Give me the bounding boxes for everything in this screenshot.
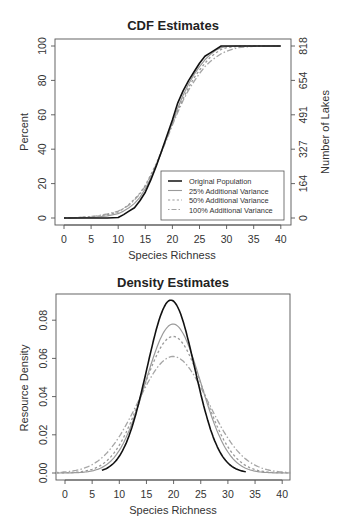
cdf-x-axis: 0510152025303540 <box>61 225 287 245</box>
y-right-tick-label: 654 <box>297 71 309 89</box>
density-y-axis: 0.000.020.040.060.08 <box>37 310 56 483</box>
cdf-chart-title: CDF Estimates <box>127 18 219 33</box>
legend-label: 25% Additional Variance <box>189 187 269 196</box>
legend-label: Original Population <box>189 177 251 186</box>
cdf-x-axis-label: Species Richness <box>128 249 216 261</box>
y-tick-label: 80 <box>36 74 48 86</box>
y-tick-label: 0.00 <box>37 463 49 484</box>
chart-figure: CDF Estimates 0510152025303540 020406080… <box>0 0 345 529</box>
cdf-y-axis-left: 020406080100 <box>36 37 55 221</box>
y-tick-label: 0.08 <box>37 310 49 331</box>
density-x-axis: 0510152025303540 <box>62 480 288 500</box>
x-tick-label: 15 <box>139 233 151 245</box>
legend-label: 50% Additional Variance <box>189 196 269 205</box>
x-tick-label: 35 <box>249 488 261 500</box>
x-tick-label: 25 <box>194 233 206 245</box>
density-series-lines <box>57 300 290 473</box>
density-chart: Density Estimates 0510152025303540 0.000… <box>18 275 290 516</box>
y-tick-label: 40 <box>36 143 48 155</box>
y-right-tick-label: 818 <box>297 37 309 55</box>
cdf-legend: Original Population 25% Additional Varia… <box>161 171 284 220</box>
x-tick-label: 40 <box>275 233 287 245</box>
y-tick-label: 20 <box>36 178 48 190</box>
x-tick-label: 35 <box>248 233 260 245</box>
x-tick-label: 25 <box>195 488 207 500</box>
y-tick-label: 100 <box>36 37 48 55</box>
x-tick-label: 30 <box>222 488 234 500</box>
x-tick-label: 0 <box>61 233 67 245</box>
density-line <box>57 324 290 473</box>
cdf-chart: CDF Estimates 0510152025303540 020406080… <box>18 18 331 261</box>
y-tick-label: 0.06 <box>37 348 49 369</box>
y-tick-label: 60 <box>36 109 48 121</box>
x-tick-label: 20 <box>167 233 179 245</box>
x-tick-label: 40 <box>276 488 288 500</box>
x-tick-label: 0 <box>62 488 68 500</box>
y-tick-label: 0.02 <box>37 424 49 445</box>
y-right-tick-label: 327 <box>297 140 309 158</box>
x-tick-label: 30 <box>221 233 233 245</box>
cdf-y-axis-right-label: Number of Lakes <box>319 90 331 174</box>
x-tick-label: 5 <box>89 488 95 500</box>
x-tick-label: 15 <box>141 488 153 500</box>
x-tick-label: 10 <box>113 488 125 500</box>
y-right-tick-label: 491 <box>297 106 309 124</box>
density-chart-title: Density Estimates <box>117 275 229 290</box>
density-line <box>57 357 290 473</box>
density-x-axis-label: Species Richness <box>129 504 217 516</box>
x-tick-label: 5 <box>88 233 94 245</box>
density-plot-frame <box>56 294 290 480</box>
x-tick-label: 10 <box>112 233 124 245</box>
legend-label: 100% Additional Variance <box>189 206 273 215</box>
x-tick-label: 20 <box>168 488 180 500</box>
y-tick-label: 0 <box>36 215 48 221</box>
y-right-tick-label: 0 <box>297 215 309 221</box>
cdf-y-axis-right: 0164327491654818 <box>291 37 309 221</box>
cdf-y-axis-label: Percent <box>18 113 30 151</box>
y-tick-label: 0.04 <box>37 386 49 407</box>
y-right-tick-label: 164 <box>297 175 309 193</box>
density-y-axis-label: Resource Density <box>18 344 30 431</box>
